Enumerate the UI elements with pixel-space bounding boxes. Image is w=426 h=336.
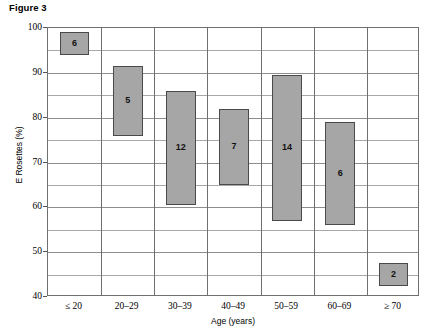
range-box: 7 [219,109,249,185]
range-box-count-label: 7 [231,142,236,151]
figure-container: Figure 3 E Rosettes (%) 405060708090100 … [0,0,426,336]
range-box-count-label: 2 [391,270,396,279]
x-tick-label: 30–39 [168,301,192,311]
x-tick-label: 50–59 [274,301,298,311]
range-box: 6 [60,32,90,54]
y-tick-label: 100 [0,22,42,32]
range-box-count-label: 6 [338,169,343,178]
gridline-vertical [101,28,102,295]
range-box: 2 [379,263,409,285]
range-box-count-label: 12 [176,143,186,152]
gridline-horizontal-major [48,73,418,74]
plot-area: 651271462 [47,27,419,296]
y-tick-mark [43,296,47,297]
gridline-horizontal-minor [48,275,418,276]
y-tick-label: 90 [0,67,42,77]
x-tick-label: ≤ 20 [65,301,82,311]
gridline-vertical [367,28,368,295]
range-box: 12 [166,91,196,205]
range-box: 14 [272,75,302,221]
range-box: 6 [325,122,355,225]
x-axis-title: Age (years) [47,316,419,326]
gridline-horizontal-major [48,252,418,253]
x-tick-label: ≥ 70 [384,301,401,311]
y-tick-label: 80 [0,112,42,122]
range-box: 5 [113,66,143,135]
gridline-horizontal-minor [48,230,418,231]
gridline-vertical [314,28,315,295]
y-tick-label: 70 [0,157,42,167]
gridline-vertical [261,28,262,295]
y-tick-label: 40 [0,291,42,301]
gridline-horizontal-minor [48,95,418,96]
x-tick-label: 20–29 [115,301,139,311]
range-box-count-label: 5 [125,96,130,105]
gridline-vertical [154,28,155,295]
range-box-count-label: 14 [282,143,292,152]
gridline-horizontal-major [48,207,418,208]
figure-caption: Figure 3 [9,2,47,13]
gridline-horizontal-minor [48,185,418,186]
gridline-horizontal-minor [48,50,418,51]
gridline-vertical [207,28,208,295]
y-tick-label: 60 [0,201,42,211]
x-tick-label: 40–49 [221,301,245,311]
y-tick-label: 50 [0,246,42,256]
range-box-count-label: 6 [72,39,77,48]
x-tick-label: 60–69 [327,301,351,311]
